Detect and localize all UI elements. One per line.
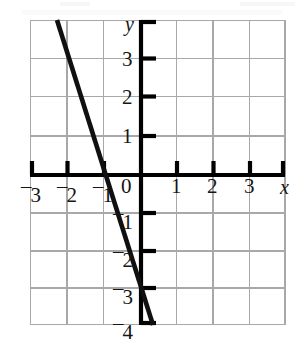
- tick-value: 3: [244, 174, 255, 198]
- y-tick-label-pos2: 2: [122, 87, 133, 108]
- x-tick-label-neg3: –3: [21, 176, 41, 206]
- tick-value: 3: [122, 47, 133, 71]
- y-axis-ticks: [141, 22, 156, 323]
- x-tick-label-zero: 0: [122, 176, 132, 197]
- tick-value: 1: [103, 183, 114, 207]
- tick-value: 2: [67, 183, 78, 207]
- tick-value: 4: [123, 320, 134, 343]
- tick-value: 1: [122, 124, 133, 148]
- tick-value: 0: [121, 174, 132, 198]
- tick-value: 3: [123, 285, 134, 309]
- y-tick-label-neg1: –1: [113, 203, 133, 233]
- tick-value: 1: [171, 174, 182, 198]
- y-axis: [141, 20, 156, 325]
- tick-value: 3: [31, 183, 42, 207]
- tick-value: 2: [122, 85, 133, 109]
- y-tick-label-neg3: –3: [113, 278, 133, 308]
- line-series: [57, 20, 153, 325]
- y-tick-label-pos3: 3: [122, 49, 133, 70]
- x-tick-label-neg2: –2: [57, 176, 77, 206]
- x-tick-label-neg1: –1: [93, 176, 113, 206]
- x-axis-label: x: [280, 177, 289, 197]
- x-axis: [30, 161, 285, 175]
- x-tick-label-pos2: 2: [207, 176, 218, 197]
- x-tick-label-pos3: 3: [244, 176, 255, 197]
- tick-value: 2: [207, 174, 218, 198]
- y-tick-label-pos1: 1: [122, 126, 133, 147]
- tick-value: 2: [123, 248, 134, 272]
- x-tick-label-pos1: 1: [171, 176, 182, 197]
- y-tick-label-neg2: –2: [113, 241, 133, 271]
- tick-value: 1: [123, 210, 134, 234]
- y-tick-label-neg4: –4: [113, 313, 133, 343]
- y-axis-label: y: [125, 14, 134, 34]
